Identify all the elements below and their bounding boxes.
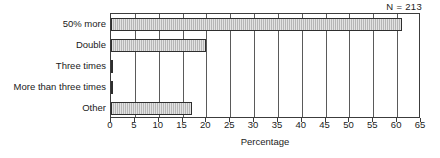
bar-row	[111, 18, 419, 31]
x-axis-title: Percentage	[110, 136, 420, 147]
bar-row	[111, 81, 419, 94]
y-axis-label: Three times	[56, 61, 106, 71]
x-tick-label: 20	[200, 119, 211, 130]
x-tick-label: 25	[224, 119, 235, 130]
x-tick-label: 30	[248, 119, 259, 130]
x-tick-label: 60	[391, 119, 402, 130]
bars-layer	[111, 14, 419, 117]
y-axis-label: Other	[82, 103, 106, 113]
bar	[111, 39, 206, 52]
bar-row	[111, 102, 419, 115]
bar-row	[111, 39, 419, 52]
bar-chart: N = 213 50% moreDoubleThree timesMore th…	[0, 0, 440, 158]
x-tick-label: 40	[295, 119, 306, 130]
x-tick-label: 55	[367, 119, 378, 130]
x-tick-label: 10	[152, 119, 163, 130]
sample-size-annotation: N = 213	[386, 1, 422, 12]
x-tick-label: 15	[176, 119, 187, 130]
x-tick-label: 65	[415, 119, 426, 130]
x-tick-label: 35	[272, 119, 283, 130]
x-tick-label: 50	[343, 119, 354, 130]
y-axis-label: More than three times	[14, 82, 106, 92]
x-tick-label: 5	[131, 119, 136, 130]
bar	[111, 102, 192, 115]
x-tick-label: 45	[319, 119, 330, 130]
y-axis-labels: 50% moreDoubleThree timesMore than three…	[0, 13, 106, 118]
x-axis-tick-labels: 05101520253035404550556065	[0, 119, 440, 133]
bar	[111, 18, 402, 31]
y-axis-label: Double	[76, 40, 106, 50]
plot-area	[110, 13, 420, 118]
bar	[111, 60, 113, 73]
bar-row	[111, 60, 419, 73]
y-axis-label: 50% more	[63, 19, 106, 29]
bar	[111, 81, 113, 94]
x-tick-label: 0	[107, 119, 112, 130]
